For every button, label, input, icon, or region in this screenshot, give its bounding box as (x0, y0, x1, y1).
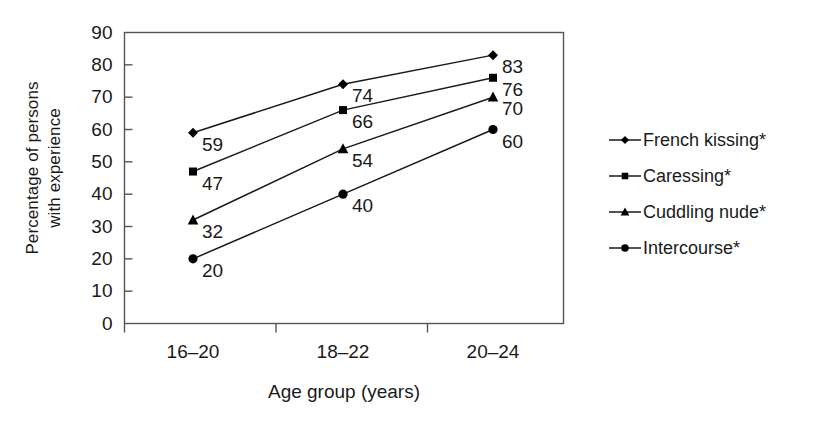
data-point-marker-square (189, 168, 197, 176)
y-tick-label: 80 (79, 55, 113, 74)
y-tick-label: 70 (79, 87, 113, 106)
legend-label: Intercourse* (643, 239, 740, 257)
data-point-label: 74 (352, 86, 373, 105)
data-point-label: 70 (502, 99, 523, 118)
legend-label: French kissing* (643, 131, 766, 149)
series-polyline (193, 78, 493, 172)
plot-frame (125, 33, 564, 324)
data-point-marker-square (489, 74, 497, 82)
data-point-label: 54 (352, 151, 373, 170)
data-point-label: 20 (202, 261, 223, 280)
x-axis-title: Age group (years) (124, 382, 564, 401)
legend-item-circle[interactable]: Intercourse* (608, 230, 808, 266)
x-tick-label: 20–24 (433, 342, 553, 361)
series-polyline (193, 97, 493, 220)
data-point-label: 32 (202, 222, 223, 241)
chart-figure: Percentage of persons with experience 01… (0, 0, 816, 422)
data-point-marker-circle (338, 190, 347, 199)
legend-item-diamond[interactable]: French kissing* (608, 122, 808, 158)
legend-marker-square-icon (608, 167, 642, 185)
data-point-label: 40 (352, 196, 373, 215)
data-point-label: 66 (352, 112, 373, 131)
data-point-marker-circle (488, 125, 497, 134)
legend-label: Cuddling nude* (643, 203, 766, 221)
y-tick-label: 50 (79, 152, 113, 171)
data-point-marker-square (622, 173, 629, 180)
data-point-label: 60 (502, 132, 523, 151)
y-tick-label: 20 (79, 249, 113, 268)
data-point-label: 59 (202, 135, 223, 154)
y-tick-label: 10 (79, 281, 113, 300)
data-point-marker-square (339, 106, 347, 114)
data-point-marker-triangle (488, 92, 499, 102)
y-tick-label: 90 (79, 23, 113, 42)
legend-label: Caressing* (643, 167, 731, 185)
data-point-marker-circle (621, 244, 629, 252)
data-point-marker-diamond (188, 128, 198, 138)
legend-marker-triangle-icon (608, 203, 642, 221)
y-tick-label: 0 (79, 314, 113, 333)
data-point-label: 83 (502, 57, 523, 76)
data-point-label: 76 (502, 80, 523, 99)
series-polyline (193, 55, 493, 133)
legend-marker-circle-icon (608, 239, 642, 257)
data-point-marker-diamond (488, 50, 498, 60)
data-point-marker-triangle (188, 214, 199, 224)
legend-item-square[interactable]: Caressing* (608, 158, 808, 194)
data-point-label: 47 (202, 174, 223, 193)
x-tick-label: 16–20 (133, 342, 253, 361)
y-tick-label: 40 (79, 184, 113, 203)
data-point-marker-circle (188, 254, 197, 263)
legend-marker-diamond-icon (608, 131, 642, 149)
data-point-marker-diamond (621, 136, 629, 144)
x-tick-label: 18–22 (283, 342, 403, 361)
y-tick-label: 60 (79, 120, 113, 139)
series-line (188, 50, 498, 138)
legend-item-triangle[interactable]: Cuddling nude* (608, 194, 808, 230)
data-point-marker-diamond (338, 79, 348, 89)
y-tick-label: 30 (79, 217, 113, 236)
chart-legend: French kissing*Caressing*Cuddling nude*I… (608, 122, 808, 266)
